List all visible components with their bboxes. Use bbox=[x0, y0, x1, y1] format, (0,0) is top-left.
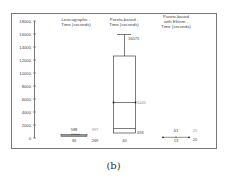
y-tick-label: 12000 bbox=[19, 58, 31, 63]
box-3-top-label: 61 bbox=[174, 128, 179, 133]
box-2-min-label: 40 bbox=[122, 138, 127, 143]
category-2-label: Time (seconds) bbox=[109, 22, 139, 27]
box-2-median-label: 5441 bbox=[137, 100, 147, 105]
box-plot-chart: 18000 16000 14000 12000 10000 8000 6000 … bbox=[0, 0, 227, 183]
category-3-label: Time (seconds) bbox=[161, 24, 191, 29]
y-tick-label: 14000 bbox=[19, 45, 31, 50]
y-tick-label: 16000 bbox=[19, 32, 31, 37]
box-3-bottom-right-label: 20 bbox=[193, 137, 198, 142]
y-tick-label: 6000 bbox=[22, 97, 32, 102]
figure-caption: (b) bbox=[0, 160, 227, 171]
box-2-q1-label: 696 bbox=[137, 130, 144, 135]
box-3-bottom-label: 13 bbox=[174, 138, 179, 143]
box-1-bottom-right-label: 269 bbox=[92, 138, 99, 143]
y-tick-label: 10000 bbox=[19, 71, 31, 76]
y-tick-label: 8000 bbox=[22, 84, 32, 89]
box-2-max-label: 16075 bbox=[128, 36, 140, 41]
box-3-right-label: 25 bbox=[193, 128, 198, 133]
y-tick-label: 2000 bbox=[22, 123, 32, 128]
category-1-label: Time (seconds) bbox=[61, 22, 91, 27]
box-1-right-label: 397 bbox=[92, 127, 99, 132]
box-lexicographic bbox=[61, 134, 87, 136]
y-tick-label: 18000 bbox=[19, 19, 31, 24]
y-tick-label: 4000 bbox=[22, 110, 32, 115]
box-1-bottom-label: 36 bbox=[72, 138, 77, 143]
category-labels: Lexicographic - Time (seconds) Pareto-ba… bbox=[61, 14, 191, 29]
box-1-top-label: 588 bbox=[71, 127, 78, 132]
